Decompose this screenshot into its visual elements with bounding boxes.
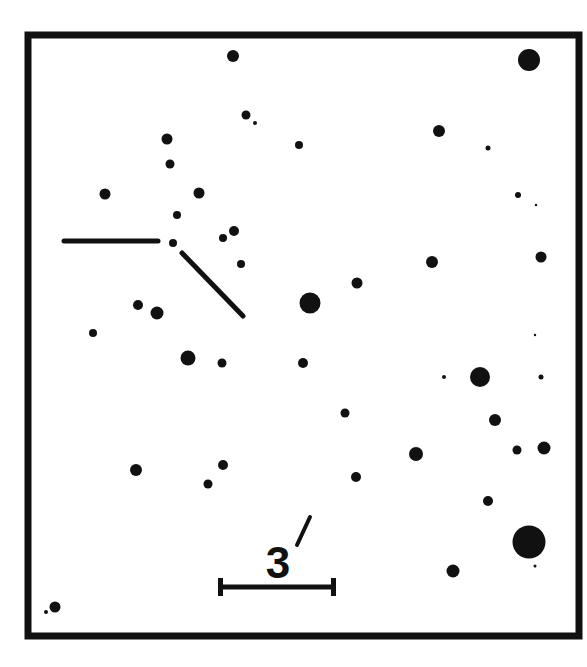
star — [133, 300, 143, 310]
star — [536, 252, 547, 263]
chart-background — [0, 0, 587, 667]
star — [483, 496, 493, 506]
star — [433, 125, 445, 137]
star — [518, 49, 540, 71]
star — [426, 256, 438, 268]
star — [352, 278, 363, 289]
star — [253, 121, 257, 125]
star — [535, 204, 537, 206]
star — [538, 442, 551, 455]
star — [50, 602, 61, 613]
star — [298, 358, 308, 368]
star — [194, 188, 205, 199]
star — [219, 234, 227, 242]
star — [351, 472, 361, 482]
star — [341, 409, 350, 418]
star — [295, 141, 303, 149]
star — [218, 460, 228, 470]
star — [442, 375, 446, 379]
star — [229, 226, 239, 236]
star — [100, 189, 111, 200]
star — [173, 211, 181, 219]
star — [181, 351, 196, 366]
star — [300, 293, 321, 314]
star — [515, 192, 521, 198]
star — [242, 111, 251, 120]
star — [89, 329, 97, 337]
finder-chart: 3 — [0, 0, 587, 667]
target-star — [169, 239, 177, 247]
star — [237, 260, 245, 268]
star — [227, 50, 239, 62]
star — [162, 134, 173, 145]
star — [130, 464, 142, 476]
star — [513, 526, 546, 559]
star — [447, 565, 460, 578]
star — [151, 307, 164, 320]
star — [44, 610, 48, 614]
star — [470, 367, 490, 387]
star — [534, 565, 537, 568]
star — [204, 480, 213, 489]
scale-bar-label: 3 — [266, 538, 290, 587]
star — [166, 160, 175, 169]
star — [486, 146, 491, 151]
star — [513, 446, 522, 455]
star — [409, 447, 423, 461]
star — [218, 359, 227, 368]
star — [539, 375, 544, 380]
star — [534, 334, 536, 336]
star — [489, 414, 501, 426]
